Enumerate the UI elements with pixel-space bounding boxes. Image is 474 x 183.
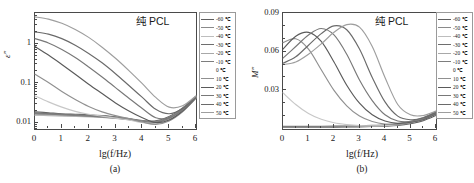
y-tick-label: 0.03	[237, 84, 279, 94]
y-tick-label: 1	[0, 37, 31, 47]
legend-item: 40 ℃	[438, 100, 470, 109]
legend-swatch	[438, 104, 451, 105]
x-minor-tick	[74, 126, 75, 129]
legend-item: -50 ℃	[201, 24, 233, 33]
legend-item: 40 ℃	[201, 100, 233, 109]
legend-item: -50 ℃	[438, 24, 470, 33]
x-tick-label: 4	[377, 133, 391, 143]
x-tick-label: 3	[108, 133, 122, 143]
y-minor-tick	[34, 55, 37, 56]
x-minor-tick	[397, 126, 398, 129]
annotation-a: 纯 PCL	[136, 13, 169, 28]
legend-label: -60 ℃	[453, 15, 468, 24]
panel-b: M″ 纯 PCL -60 ℃-50 ℃-40 ℃-30 ℃-20 ℃-10 ℃0…	[237, 0, 474, 183]
legend-item: 50 ℃	[201, 109, 233, 118]
y-minor-tick	[34, 45, 37, 46]
y-minor-tick	[34, 24, 37, 25]
y-minor-tick	[34, 52, 37, 53]
y-minor-tick	[34, 88, 37, 89]
x-minor-tick	[168, 126, 169, 129]
panel-label-a: (a)	[95, 164, 135, 174]
legend-swatch	[438, 70, 451, 71]
y-minor-tick	[34, 110, 37, 111]
legend-item: 10 ℃	[438, 75, 470, 84]
legend-swatch	[438, 78, 451, 79]
legend-item: 20 ℃	[201, 83, 233, 92]
data-curve	[283, 24, 436, 116]
x-tick-label: 5	[161, 133, 175, 143]
panel-a: ε″ 纯 PCL -60 ℃-50 ℃-40 ℃-30 ℃-20 ℃-10 ℃0…	[0, 0, 237, 183]
legend-label: 30 ℃	[216, 92, 229, 101]
legend-label: -20 ℃	[216, 49, 231, 58]
y-minor-tick	[34, 103, 37, 104]
y-minor-tick	[34, 70, 37, 71]
legend-item: 30 ℃	[438, 92, 470, 101]
legend-label: -30 ℃	[453, 41, 468, 50]
legend-label: 50 ℃	[453, 109, 466, 118]
annotation-b: 纯 PCL	[375, 13, 408, 28]
x-minor-tick	[308, 126, 309, 129]
legend-label: 40 ℃	[216, 100, 229, 109]
y-minor-tick	[34, 98, 37, 99]
legend-swatch	[438, 36, 451, 37]
y-minor-tick	[34, 86, 37, 87]
x-minor-tick	[359, 126, 360, 129]
legend-label: 30 ℃	[453, 92, 466, 101]
data-curve	[35, 32, 196, 114]
legend-swatch	[201, 61, 214, 62]
legend-label: 0 ℃	[453, 66, 463, 75]
x-minor-tick	[282, 126, 283, 129]
x-tick-label: 5	[403, 133, 417, 143]
y-minor-tick	[282, 76, 285, 77]
x-minor-tick	[371, 126, 372, 129]
legend-label: -40 ℃	[453, 32, 468, 41]
legend-item: -30 ℃	[201, 41, 233, 50]
legend-item: -10 ℃	[438, 58, 470, 67]
y-minor-tick	[282, 89, 285, 90]
y-minor-tick	[282, 51, 285, 52]
legend-item: -10 ℃	[201, 58, 233, 67]
x-minor-tick	[115, 126, 116, 129]
y-minor-tick	[34, 84, 37, 85]
y-axis-label-a: ε″	[2, 51, 12, 58]
x-minor-tick	[333, 126, 334, 129]
legend-swatch	[438, 53, 451, 54]
x-minor-tick	[34, 126, 35, 129]
legend-item: -40 ℃	[201, 32, 233, 41]
x-tick-label: 6	[428, 133, 442, 143]
data-curve	[283, 26, 436, 120]
panel-label-b: (b)	[342, 164, 382, 174]
y-minor-tick	[34, 19, 37, 20]
legend-swatch	[438, 95, 451, 96]
x-axis-label-a: lg(f/Hz)	[75, 148, 155, 159]
legend-item: 20 ℃	[438, 83, 470, 92]
x-minor-tick	[195, 126, 196, 129]
y-tick-mark	[282, 12, 286, 13]
legend-item: -60 ℃	[438, 15, 470, 24]
x-minor-tick	[141, 126, 142, 129]
x-minor-tick	[61, 126, 62, 129]
curves-a	[35, 13, 196, 129]
x-minor-tick	[410, 126, 411, 129]
legend-label: -60 ℃	[216, 15, 231, 24]
legend-label: 0 ℃	[216, 66, 226, 75]
legend-a: -60 ℃-50 ℃-40 ℃-30 ℃-20 ℃-10 ℃0 ℃10 ℃20 …	[199, 12, 236, 119]
x-minor-tick	[435, 126, 436, 129]
legend-swatch	[201, 19, 214, 20]
legend-label: -10 ℃	[453, 58, 468, 67]
plot-area-a	[34, 12, 197, 130]
x-minor-tick	[384, 126, 385, 129]
data-curve	[283, 28, 436, 121]
y-minor-tick	[282, 115, 285, 116]
y-tick-label: 0.09	[237, 7, 279, 17]
x-tick-label: 2	[81, 133, 95, 143]
legend-swatch	[438, 19, 451, 20]
x-tick-label: 6	[188, 133, 202, 143]
data-curve	[283, 112, 436, 127]
legend-item: 30 ℃	[201, 92, 233, 101]
legend-label: -20 ℃	[453, 49, 468, 58]
x-minor-tick	[128, 126, 129, 129]
legend-item: -40 ℃	[438, 32, 470, 41]
legend-label: 10 ℃	[216, 75, 229, 84]
legend-swatch	[201, 27, 214, 28]
